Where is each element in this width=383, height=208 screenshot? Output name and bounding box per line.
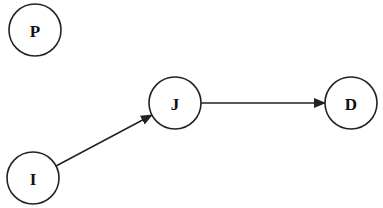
node-i-label: I [30,170,37,189]
graph-canvas: P J D I [0,0,383,208]
node-p: P [9,4,61,56]
node-j-label: J [171,95,180,114]
node-d: D [325,77,377,129]
node-d-label: D [345,95,357,114]
node-i: I [7,152,59,204]
node-p-label: P [30,22,40,41]
node-j: J [149,77,201,129]
edge-i-to-j [56,115,152,166]
